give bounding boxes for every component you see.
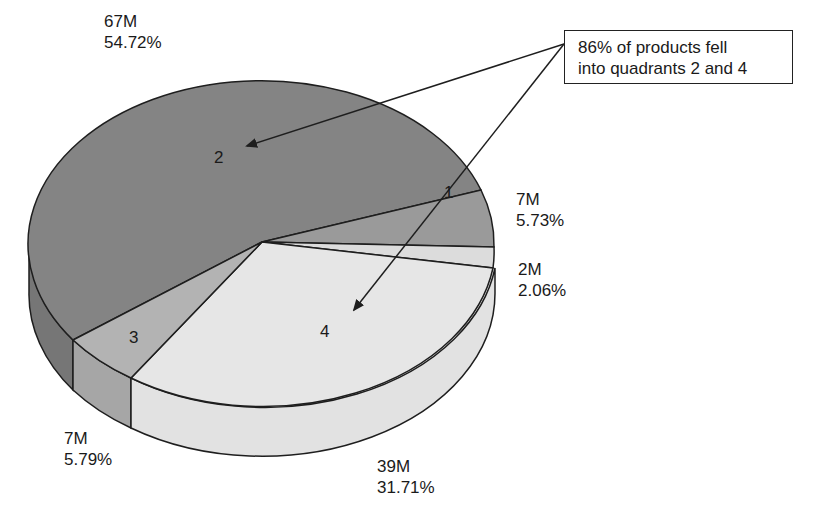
slice-4-percent: 31.71% [377,477,435,498]
annotation-callout: 86% of products fell into quadrants 2 an… [564,30,793,84]
slice-4-label: 39M 31.71% [377,456,435,498]
slice-2-percent: 54.72% [104,32,162,53]
slice-1-label: 7M 5.73% [516,189,564,231]
slice-1-percent: 5.73% [516,210,564,231]
annotation-line-2: into quadrants 2 and 4 [578,58,792,79]
annotation-line-1: 86% of products fell [578,37,792,58]
slice-3-value: 7M [64,428,112,449]
slice-1-value: 7M [516,189,564,210]
slice-4b-value: 2M [518,259,566,280]
slice-4-number: 4 [320,322,329,342]
slice-2-label: 67M 54.72% [104,11,162,53]
slice-3-number: 3 [129,328,138,348]
slice-2-value: 67M [104,11,162,32]
slice-4b-percent: 2.06% [518,280,566,301]
slice-4-value: 39M [377,456,435,477]
slice-4b-label: 2M 2.06% [518,259,566,301]
slice-3-percent: 5.79% [64,449,112,470]
slice-3-label: 7M 5.79% [64,428,112,470]
slice-1-number: 1 [444,183,453,203]
slice-2-number: 2 [214,148,223,168]
